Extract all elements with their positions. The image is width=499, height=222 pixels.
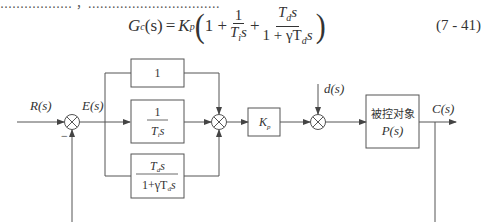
summing-junction-3 (311, 115, 326, 130)
proportional-label: 1 (155, 66, 161, 80)
minus-sign: − (61, 129, 68, 143)
plant-label-cn: 被控对象 (371, 107, 415, 121)
integral-den: Tis (151, 124, 165, 139)
plant-label-tf: P(s) (381, 123, 404, 138)
disturbance-label: d(s) (324, 81, 344, 96)
gain-label: Kp (258, 115, 271, 131)
output-label: C(s) (432, 101, 454, 116)
integral-num: 1 (155, 105, 161, 119)
block-diagram: R(s) E(s) − 1 1 Tis Tds 1+γTds Kp d(s) 被… (0, 0, 499, 222)
derivative-num: Tds (150, 159, 165, 174)
plant-block (366, 95, 419, 148)
input-label: R(s) (29, 98, 52, 113)
summing-junction-2 (212, 115, 227, 130)
summing-junction-1 (65, 115, 80, 130)
derivative-den: 1+γTds (142, 178, 176, 193)
error-label: E(s) (81, 98, 104, 113)
